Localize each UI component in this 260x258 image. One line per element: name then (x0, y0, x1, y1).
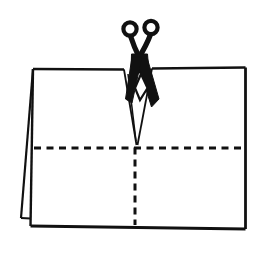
origami-cut-diagram (0, 0, 260, 258)
origami-cut-diagram-svg (0, 0, 260, 258)
paper-top-edge-right (152, 68, 246, 69)
scissors-handle-left (123, 22, 136, 35)
paper-bottom-edge (31, 226, 246, 229)
paper-top-edge-left (33, 69, 124, 70)
fold-back-bottom-edge (21, 218, 31, 219)
scissors-handle-right (144, 21, 157, 34)
